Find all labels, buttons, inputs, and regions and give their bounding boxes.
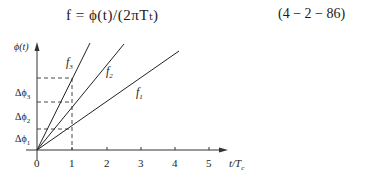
label-f3: f3: [66, 55, 73, 71]
x-tick-labels: 0 1 2 3 4 5: [34, 157, 212, 169]
x-axis-label: t/Tc: [229, 157, 245, 172]
x-tick-2: 2: [104, 157, 110, 169]
x-tick-1: 1: [69, 157, 75, 169]
x-tick-3: 3: [138, 157, 144, 169]
phase-chart: 0 1 2 3 4 5 t/Tc ϕ(t) Δϕ3 Δϕ2 Δϕ1 f3 f2 …: [0, 0, 384, 183]
x-axis-arrow-icon: [219, 148, 228, 153]
delta-phi-2-label: Δϕ2: [15, 111, 31, 125]
delta-phi-3-label: Δϕ3: [15, 87, 31, 101]
label-f2: f2: [106, 64, 113, 80]
x-tick-0: 0: [34, 157, 40, 169]
y-axis-arrow-icon: [35, 42, 40, 51]
y-axis-label: ϕ(t): [14, 41, 29, 53]
series-lines: [37, 43, 179, 150]
line-f3: [37, 43, 90, 150]
x-tick-4: 4: [172, 157, 178, 169]
x-tick-5: 5: [206, 157, 212, 169]
line-f2: [37, 44, 124, 150]
label-f1: f1: [136, 85, 143, 101]
series-labels: f3 f2 f1: [66, 55, 143, 101]
delta-phi-1-label: Δϕ1: [15, 133, 31, 147]
delta-phi-labels: Δϕ3 Δϕ2 Δϕ1: [15, 87, 31, 147]
